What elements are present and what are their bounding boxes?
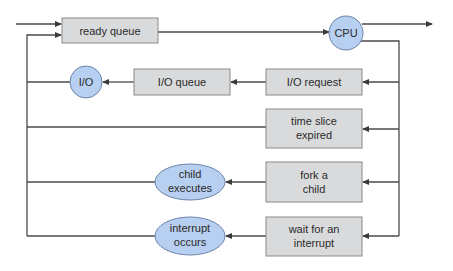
wait-interrupt-box: wait for an interrupt (266, 217, 362, 256)
io-node: I/O (70, 66, 102, 98)
interrupt-label-line1: interrupt (170, 222, 210, 234)
cpu-node: CPU (329, 16, 363, 50)
return-arrow (27, 35, 61, 236)
child-label-line2: executes (168, 182, 213, 194)
interrupt-label-line2: occurs (174, 236, 207, 248)
connector-lines (16, 24, 432, 236)
cpu-right-bus (360, 41, 399, 236)
time-slice-box: time slice expired (266, 109, 362, 148)
wait-label-line2: interrupt (294, 237, 334, 249)
interrupt-occurs-node: interrupt occurs (155, 217, 225, 255)
time-slice-label-line2: expired (296, 129, 332, 141)
cpu-label: CPU (334, 27, 357, 39)
fork-label-line1: fork a (300, 169, 328, 181)
child-executes-node: child executes (155, 164, 225, 200)
scheduling-queue-diagram: ready queue CPU I/O request I/O queue I/… (0, 0, 453, 271)
ready-queue-label: ready queue (79, 25, 140, 37)
fork-child-box: fork a child (266, 162, 362, 202)
io-queue-label: I/O queue (158, 76, 206, 88)
io-request-label: I/O request (287, 76, 341, 88)
wait-label-line1: wait for an (288, 223, 340, 235)
time-slice-label-line1: time slice (291, 115, 337, 127)
io-request-box: I/O request (266, 69, 362, 95)
io-queue-box: I/O queue (134, 69, 230, 95)
ready-queue-box: ready queue (62, 18, 158, 43)
io-label: I/O (79, 76, 94, 88)
fork-label-line2: child (303, 183, 326, 195)
child-label-line1: child (179, 168, 202, 180)
